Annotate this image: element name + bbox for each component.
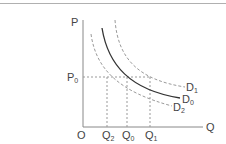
q-axis-label: Q xyxy=(206,122,215,133)
q1-label: Q1 xyxy=(145,130,157,142)
q0-label: Q0 xyxy=(122,130,134,142)
origin-label: O xyxy=(77,130,86,141)
p0-label: P0 xyxy=(67,72,78,84)
d2-label: D2 xyxy=(173,102,185,114)
d1-curve xyxy=(115,20,185,87)
p-axis-label: P xyxy=(71,17,78,28)
demand-shift-chart xyxy=(0,0,226,144)
q2-label: Q2 xyxy=(102,130,114,142)
d0-curve xyxy=(102,28,180,98)
d2-curve xyxy=(91,34,172,106)
